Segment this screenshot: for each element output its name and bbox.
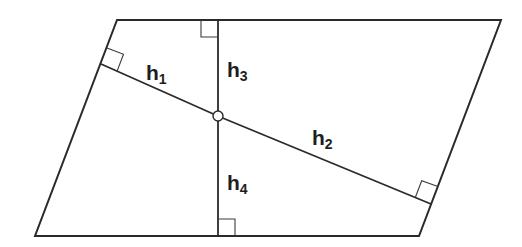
label-h3-main: h: [227, 58, 240, 81]
label-h4-sub: 4: [240, 181, 248, 197]
right-angle-marker-h4: [218, 219, 235, 236]
label-h1-main: h: [146, 61, 159, 84]
right-angle-marker-h3: [201, 20, 218, 37]
label-h4: h4: [227, 171, 248, 197]
label-h3: h3: [227, 58, 248, 84]
label-h2: h2: [312, 126, 333, 152]
label-h2-main: h: [312, 126, 325, 149]
parallelogram-altitudes-diagram: h1 h3 h2 h4: [0, 0, 522, 247]
label-h1-sub: 1: [159, 71, 167, 87]
label-h3-sub: 3: [240, 68, 248, 84]
label-h4-main: h: [227, 171, 240, 194]
segment-h2: [223, 118, 431, 204]
label-h1: h1: [146, 61, 167, 87]
interior-point: [213, 111, 223, 121]
label-h2-sub: 2: [325, 136, 333, 152]
